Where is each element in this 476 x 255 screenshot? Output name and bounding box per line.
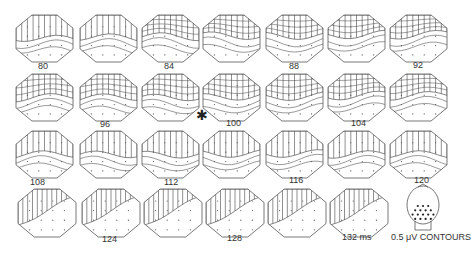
time-label: 92	[413, 61, 423, 70]
topo-map-frame-2	[80, 15, 137, 62]
topo-map-frame-24	[144, 189, 202, 237]
topo-map-frame-11	[203, 74, 260, 121]
time-label: 116	[289, 176, 303, 185]
time-label: 128	[227, 234, 242, 243]
topo-map-frame-3	[142, 15, 199, 62]
time-label: 108	[30, 178, 45, 187]
topo-map-frame-10	[142, 74, 199, 121]
topo-map-frame-1	[16, 15, 73, 62]
topo-map-frame-25	[206, 189, 264, 237]
topo-map-frame-7	[390, 15, 447, 62]
topo-map-frame-4	[203, 15, 260, 62]
time-label: 120	[414, 176, 429, 185]
topo-map-frame-21	[390, 131, 447, 178]
topo-map-frame-26	[268, 189, 326, 237]
time-label: 132 ms	[342, 233, 372, 242]
topo-map-frame-6	[328, 15, 385, 62]
time-label: 100	[226, 119, 241, 128]
topo-map-frame-27	[330, 189, 388, 237]
electrode-layout-head-icon	[407, 184, 439, 230]
topo-map-frame-22	[18, 189, 76, 237]
time-label: 88	[289, 62, 299, 71]
topo-map-frame-20	[328, 131, 385, 178]
contour-legend-label: 0.5 μV CONTOURS	[391, 233, 471, 242]
topo-map-frame-14	[390, 74, 447, 121]
time-label: 104	[351, 119, 366, 128]
topo-map-frame-17	[142, 131, 199, 178]
time-label: 112	[164, 178, 178, 187]
time-label: 96	[100, 120, 110, 129]
time-label: 84	[164, 62, 174, 71]
topo-map-frame-13	[328, 74, 385, 121]
topo-map-frame-15	[16, 131, 73, 178]
topo-map-frame-8	[16, 74, 73, 121]
topo-map-frame-23	[82, 189, 140, 237]
topo-map-frame-12	[266, 74, 323, 121]
topo-map-frame-9	[80, 74, 137, 121]
topo-map-frame-19	[266, 131, 323, 178]
topo-map-frame-5	[266, 15, 323, 62]
time-label: 80	[38, 62, 48, 71]
topo-map-frame-18	[203, 131, 260, 178]
topo-map-frame-16	[80, 131, 137, 178]
time-label: 124	[102, 235, 117, 244]
asterisk-marker-icon: ✱	[196, 108, 208, 122]
